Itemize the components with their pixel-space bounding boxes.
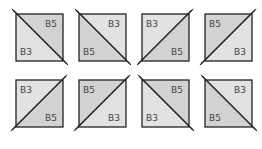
tile: B5B3: [74, 75, 130, 131]
tile: B3B5: [75, 9, 131, 65]
tile: B3B5: [11, 75, 67, 131]
lower-label: B5: [209, 113, 221, 123]
lower-label: B3: [146, 113, 158, 123]
upper-label: B5: [209, 19, 221, 29]
tile: B5B3: [138, 75, 194, 131]
lower-label: B5: [45, 113, 57, 123]
tile: B5B3: [12, 9, 68, 65]
tile: B3B5: [201, 75, 257, 131]
upper-label: B3: [234, 85, 246, 95]
upper-label: B3: [108, 19, 120, 29]
lower-label: B3: [234, 47, 246, 57]
tile: B5B3: [200, 9, 256, 65]
upper-label: B5: [83, 85, 95, 95]
upper-label: B5: [171, 85, 183, 95]
upper-label: B5: [45, 19, 57, 29]
tile: B3B5: [137, 9, 193, 65]
lower-label: B5: [83, 47, 95, 57]
lower-label: B5: [171, 47, 183, 57]
upper-label: B3: [146, 19, 158, 29]
tile-diagram: B5B3B3B5B3B5B5B3B3B5B5B3B5B3B3B5: [0, 0, 262, 149]
lower-label: B3: [20, 47, 32, 57]
upper-label: B3: [20, 85, 32, 95]
lower-label: B3: [108, 113, 120, 123]
